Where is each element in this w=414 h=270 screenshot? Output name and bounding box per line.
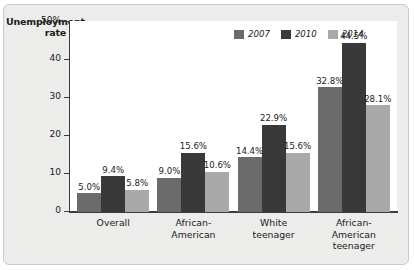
bar[interactable] — [77, 193, 101, 212]
category-label-line: African- — [176, 217, 212, 228]
bar-group: 5.0%9.4%5.8% — [77, 21, 149, 212]
bar[interactable] — [286, 153, 310, 212]
category-label-line: White — [260, 217, 287, 228]
bar-group: 14.4%22.9%15.6% — [238, 21, 310, 212]
y-axis-title-line2: rate — [45, 27, 66, 38]
bar[interactable] — [205, 172, 229, 212]
bar-value-label: 5.8% — [114, 178, 160, 188]
category-label-line: African- — [336, 217, 372, 228]
bar[interactable] — [342, 43, 366, 212]
category-label-line: teenager — [333, 240, 375, 251]
category-label-line: teenager — [253, 229, 295, 240]
bar-value-label: 15.6% — [275, 141, 321, 151]
bar[interactable] — [157, 178, 181, 212]
y-axis-tick-label: 50% — [21, 15, 61, 25]
category-label-line: American — [171, 229, 215, 240]
y-axis-tick-label: 40 — [21, 53, 61, 63]
figure-panel: Unemployment rate 50%403020100 200720102… — [3, 4, 409, 265]
category-label-line: Overall — [97, 217, 130, 228]
bar-value-label: 10.6% — [194, 160, 240, 170]
y-axis-tick-label: 10 — [21, 167, 61, 177]
category-label-line: American — [332, 229, 376, 240]
bar-value-label: 15.6% — [170, 141, 216, 151]
y-axis-tick-label: 0 — [21, 205, 61, 215]
bar[interactable] — [125, 190, 149, 212]
bar-value-label: 28.1% — [355, 94, 401, 104]
bar[interactable] — [262, 125, 286, 212]
bar-value-label: 44.5% — [331, 31, 377, 41]
y-axis-tick-label: 30 — [21, 91, 61, 101]
unemployment-rate-bar-chart: Unemployment rate 50%403020100 200720102… — [4, 5, 410, 266]
bar[interactable] — [366, 105, 390, 212]
bar-value-label: 9.4% — [90, 165, 136, 175]
bar-group: 9.0%15.6%10.6% — [157, 21, 229, 212]
bar-group: 32.8%44.5%28.1% — [318, 21, 390, 212]
bar-series-container: 5.0%9.4%5.8%9.0%15.6%10.6%14.4%22.9%15.6… — [69, 21, 398, 212]
x-axis-category-label: African-Americanteenager — [304, 217, 404, 252]
bar[interactable] — [318, 87, 342, 212]
y-axis-tick-label: 20 — [21, 129, 61, 139]
bar[interactable] — [238, 157, 262, 212]
bar-value-label: 22.9% — [251, 113, 297, 123]
